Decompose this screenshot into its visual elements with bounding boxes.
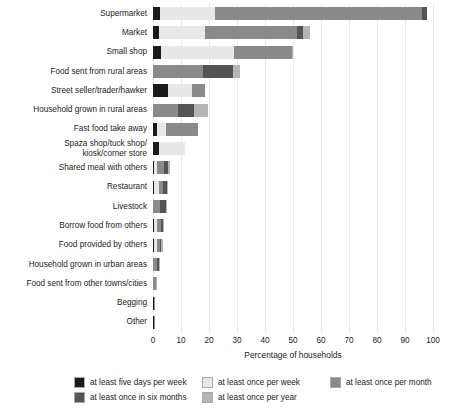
stacked-bar bbox=[153, 142, 185, 155]
x-tick-label: 0 bbox=[151, 336, 156, 345]
legend-label: at least once per week bbox=[218, 378, 300, 387]
category-label: Food sent from other towns/cities bbox=[0, 279, 147, 289]
bar-row: Restaurant bbox=[153, 181, 433, 194]
bar-row: Food sent from rural areas bbox=[153, 65, 433, 78]
category-label: Other bbox=[0, 317, 147, 327]
stacked-bar bbox=[153, 316, 155, 329]
x-tick-label: 40 bbox=[260, 336, 269, 345]
bar-segment bbox=[153, 104, 178, 117]
x-tick-label: 70 bbox=[344, 336, 353, 345]
bar-segment bbox=[153, 65, 203, 78]
legend-label: at least once in six months bbox=[90, 393, 186, 402]
category-label: Food provided by others bbox=[0, 240, 147, 250]
stacked-bar bbox=[153, 258, 160, 271]
chart-legend: at least five days per weekat least once… bbox=[74, 377, 446, 407]
x-tick-label: 20 bbox=[204, 336, 213, 345]
bar-segment bbox=[168, 84, 192, 97]
legend-label: at least once per month bbox=[346, 378, 432, 387]
legend-label: at least once per year bbox=[218, 393, 297, 402]
stacked-bar bbox=[153, 219, 164, 232]
bar-segment bbox=[159, 258, 160, 271]
plot-area: SupermarketMarketSmall shopFood sent fro… bbox=[153, 4, 433, 334]
bar-segment bbox=[234, 46, 291, 59]
x-tick-label: 80 bbox=[372, 336, 381, 345]
category-label: Spaza shop/tuck shop/ kiosk/corner store bbox=[0, 139, 147, 158]
legend-item[interactable]: at least once per month bbox=[330, 377, 432, 388]
bar-row: Household grown in urban areas bbox=[153, 258, 433, 271]
category-label: Market bbox=[0, 28, 147, 38]
stacked-bar bbox=[153, 123, 198, 136]
bar-segment bbox=[153, 84, 168, 97]
x-axis-title: Percentage of households bbox=[153, 350, 433, 360]
bar-segment bbox=[168, 161, 169, 174]
gridline-100 bbox=[433, 4, 434, 334]
bar-row: Shared meal with others bbox=[153, 161, 433, 174]
stacked-bar bbox=[153, 7, 427, 20]
bar-segment bbox=[167, 181, 168, 194]
stacked-bar bbox=[153, 84, 205, 97]
bar-segment bbox=[166, 200, 167, 213]
x-tick-label: 10 bbox=[176, 336, 185, 345]
bar-segment bbox=[178, 104, 193, 117]
category-label: Begging bbox=[0, 298, 147, 308]
bar-row: Small shop bbox=[153, 46, 433, 59]
bar-row: Supermarket bbox=[153, 7, 433, 20]
stacked-bar bbox=[153, 277, 157, 290]
bar-segment bbox=[233, 65, 240, 78]
category-label: Small shop bbox=[0, 47, 147, 57]
legend-label: at least five days per week bbox=[90, 378, 186, 387]
legend-item[interactable]: at least five days per week bbox=[74, 377, 202, 388]
x-tick-label: 50 bbox=[288, 336, 297, 345]
category-label: Borrow food from others bbox=[0, 221, 147, 231]
bar-segment bbox=[205, 26, 297, 39]
category-label: Food sent from rural areas bbox=[0, 67, 147, 77]
bar-segment bbox=[156, 277, 157, 290]
bar-segment bbox=[292, 46, 293, 59]
bar-row: Begging bbox=[153, 297, 433, 310]
legend-swatch-icon bbox=[330, 377, 341, 388]
bar-segment bbox=[203, 65, 232, 78]
category-label: Household grown in urban areas bbox=[0, 260, 147, 270]
bar-segment bbox=[157, 123, 165, 136]
bar-segment bbox=[157, 161, 164, 174]
bar-segment bbox=[153, 200, 160, 213]
bar-segment bbox=[153, 46, 161, 59]
category-label: Household grown in rural areas bbox=[0, 105, 147, 115]
legend-row: at least five days per weekat least once… bbox=[74, 377, 446, 388]
x-tick-label: 30 bbox=[232, 336, 241, 345]
bar-segment bbox=[159, 142, 186, 155]
bar-row: Food provided by others bbox=[153, 239, 433, 252]
bar-row: Fast food take away bbox=[153, 123, 433, 136]
stacked-bar-chart: SupermarketMarketSmall shopFood sent fro… bbox=[0, 0, 451, 418]
category-label: Supermarket bbox=[0, 9, 147, 19]
category-label: Livestock bbox=[0, 202, 147, 212]
stacked-bar bbox=[153, 65, 240, 78]
legend-item[interactable]: at least once per week bbox=[202, 377, 330, 388]
bar-segment bbox=[160, 7, 215, 20]
legend-swatch-icon bbox=[74, 377, 85, 388]
stacked-bar bbox=[153, 239, 163, 252]
legend-item[interactable]: at least once in six months bbox=[74, 392, 202, 403]
bar-segment bbox=[215, 7, 422, 20]
bar-row: Food sent from other towns/cities bbox=[153, 277, 433, 290]
stacked-bar bbox=[153, 26, 310, 39]
legend-swatch-icon bbox=[74, 392, 85, 403]
stacked-bar bbox=[153, 181, 168, 194]
bar-segment bbox=[154, 297, 155, 310]
bar-row: Market bbox=[153, 26, 433, 39]
category-label: Fast food take away bbox=[0, 124, 147, 134]
legend-item[interactable]: at least once per year bbox=[202, 392, 330, 403]
bar-row: Street seller/trader/hawker bbox=[153, 84, 433, 97]
legend-swatch-icon bbox=[202, 392, 213, 403]
x-tick-label: 90 bbox=[400, 336, 409, 345]
bar-segment bbox=[192, 84, 205, 97]
legend-row: at least once in six monthsat least once… bbox=[74, 392, 446, 403]
bar-segment bbox=[194, 104, 208, 117]
category-label: Shared meal with others bbox=[0, 163, 147, 173]
bar-segment bbox=[161, 46, 234, 59]
bar-segment bbox=[166, 123, 198, 136]
bar-row: Livestock bbox=[153, 200, 433, 213]
bar-segment bbox=[303, 26, 310, 39]
category-label: Street seller/trader/hawker bbox=[0, 86, 147, 96]
bar-row: Borrow food from others bbox=[153, 219, 433, 232]
